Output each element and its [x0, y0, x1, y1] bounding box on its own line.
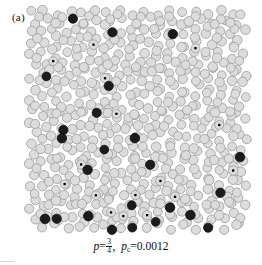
light-disk: [226, 63, 235, 72]
light-disk: [228, 175, 238, 185]
light-disk: [157, 106, 166, 115]
light-disk: [27, 6, 36, 15]
light-disk: [184, 17, 194, 27]
light-disk: [36, 144, 46, 154]
light-disk: [87, 143, 97, 153]
light-disk: [25, 74, 34, 83]
light-disk: [210, 20, 219, 29]
light-disk: [235, 56, 244, 65]
light-disk: [139, 134, 148, 143]
light-disk: [101, 176, 110, 185]
light-disk: [155, 64, 164, 73]
light-disk: [191, 24, 200, 33]
light-disk: [79, 62, 88, 71]
dark-disk: [151, 217, 160, 226]
disk-center-dot: [115, 113, 117, 115]
disk-center-dot: [110, 211, 112, 213]
caption-p-fraction: 34: [106, 238, 112, 254]
light-disk: [213, 98, 222, 107]
light-disk: [151, 142, 161, 152]
light-disk: [241, 25, 251, 35]
light-disk: [215, 77, 224, 86]
light-disk: [202, 200, 211, 209]
light-disk: [42, 122, 52, 132]
light-disk: [140, 89, 149, 98]
light-disk: [87, 78, 97, 88]
light-disk: [64, 224, 73, 233]
caption-p-denominator: 4: [106, 247, 112, 255]
caption-separator: ,: [113, 240, 116, 252]
dark-disk: [186, 210, 196, 220]
disk-center-dot: [64, 183, 66, 185]
light-disk: [63, 48, 72, 57]
light-disk: [51, 18, 61, 28]
disk-center-dot: [95, 194, 97, 196]
light-disk: [144, 37, 154, 47]
light-disk: [51, 196, 61, 206]
dark-disk: [168, 29, 177, 38]
light-disk: [204, 175, 214, 185]
light-disk: [217, 5, 226, 14]
light-disk: [242, 135, 251, 144]
light-disk: [159, 154, 168, 163]
light-disk: [228, 142, 237, 151]
light-disk: [174, 132, 183, 141]
figure-panel: (a) p=34, pc=0.0012: [0, 0, 262, 265]
light-disk: [126, 75, 135, 84]
light-disk: [179, 30, 188, 39]
light-disk: [63, 113, 72, 122]
dark-disk: [204, 223, 213, 232]
light-disk: [183, 105, 192, 114]
light-disk: [211, 201, 220, 210]
disk-center-dot: [134, 194, 136, 196]
light-disk: [83, 32, 92, 41]
dark-disk: [128, 223, 137, 232]
light-disk: [142, 223, 151, 232]
light-disk: [214, 210, 224, 220]
light-disk: [70, 81, 79, 90]
light-disk: [75, 99, 84, 108]
light-disk: [59, 36, 68, 45]
dark-disk: [165, 203, 175, 213]
light-disk: [161, 164, 170, 173]
dark-disk: [68, 14, 77, 23]
light-disk: [101, 163, 110, 172]
dark-disk: [104, 81, 113, 90]
light-disk: [79, 19, 88, 28]
light-disk: [189, 121, 198, 130]
light-disk: [135, 100, 144, 109]
light-disk: [202, 88, 211, 97]
scatter-svg: [24, 5, 252, 235]
light-disk: [186, 187, 195, 196]
light-disk: [108, 187, 117, 196]
light-disk: [75, 222, 84, 231]
light-disk: [136, 34, 145, 43]
light-disk: [123, 176, 132, 185]
light-disk: [119, 191, 128, 200]
light-disk: [152, 46, 161, 55]
light-disk: [203, 184, 213, 194]
light-disk: [77, 199, 86, 208]
light-disk: [197, 124, 206, 133]
light-disk: [146, 58, 156, 68]
light-disk: [46, 131, 55, 140]
light-disk: [146, 12, 155, 21]
light-disk: [63, 143, 72, 152]
light-disk: [232, 188, 241, 197]
light-disk: [130, 110, 139, 119]
light-disk: [38, 134, 47, 143]
light-disk: [229, 131, 239, 141]
light-disk: [153, 98, 162, 107]
light-disk: [143, 104, 153, 114]
dark-disk: [59, 125, 68, 134]
light-disk: [139, 25, 149, 35]
light-disk: [109, 99, 118, 108]
light-disk: [60, 77, 69, 86]
light-disk: [110, 168, 119, 177]
light-disk: [99, 220, 108, 229]
light-disk: [99, 130, 108, 139]
light-disk: [156, 17, 165, 26]
disk-center-dot: [52, 60, 54, 62]
light-disk: [39, 112, 48, 121]
dark-disk: [107, 225, 116, 234]
